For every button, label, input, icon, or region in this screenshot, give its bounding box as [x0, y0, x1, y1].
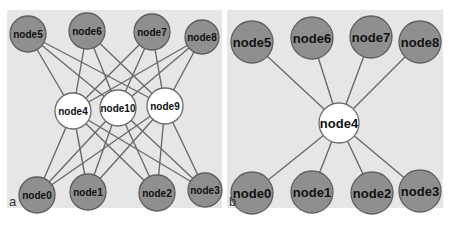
- graph-node-node10: node10: [100, 90, 136, 126]
- node-label: node0: [233, 186, 271, 201]
- graph-node-node8: node8: [185, 20, 219, 54]
- node-label: node8: [401, 35, 439, 50]
- graph-panel-a: node5node6node7node8node4node10node9node…: [10, 13, 222, 213]
- node-label: node1: [73, 187, 103, 198]
- node-label: node7: [352, 30, 390, 45]
- graph-node-node4: node4: [55, 93, 91, 129]
- graph-panel-b: node5node6node7node8node4node0node1node2…: [231, 16, 441, 214]
- node-label: node5: [233, 35, 271, 50]
- graph-node-node4: node4: [319, 103, 359, 143]
- graph-node-node3: node3: [399, 170, 441, 212]
- node-label: node4: [58, 106, 88, 117]
- graph-node-node1: node1: [70, 174, 106, 210]
- graph-node-node2: node2: [139, 175, 175, 211]
- node-label: node4: [320, 116, 359, 131]
- graph-node-node7: node7: [134, 14, 170, 50]
- panel-label-a: a: [9, 194, 16, 209]
- graph-node-node1: node1: [291, 171, 333, 213]
- node-label: node2: [142, 188, 172, 199]
- graph-node-node2: node2: [351, 172, 393, 214]
- node-label: node5: [13, 29, 43, 40]
- graph-node-node6: node6: [291, 17, 333, 59]
- node-label: node0: [22, 190, 52, 201]
- graph-node-node3: node3: [188, 173, 222, 207]
- graph-canvas: node5node6node7node8node4node10node9node…: [0, 0, 451, 226]
- node-label: node3: [190, 185, 220, 196]
- node-label: node7: [137, 27, 167, 38]
- node-label: node10: [100, 103, 135, 114]
- node-label: node6: [72, 26, 102, 37]
- node-label: node3: [401, 184, 439, 199]
- graph-node-node6: node6: [69, 13, 105, 49]
- panel-label-b: b: [229, 194, 236, 209]
- graph-node-node0: node0: [231, 172, 273, 214]
- node-label: node1: [293, 185, 331, 200]
- node-label: node9: [150, 101, 180, 112]
- graph-node-node8: node8: [399, 21, 441, 63]
- node-label: node6: [293, 31, 331, 46]
- graph-node-node7: node7: [350, 16, 392, 58]
- graph-node-node0: node0: [19, 177, 55, 213]
- graph-node-node5: node5: [231, 21, 273, 63]
- graph-node-node5: node5: [10, 16, 46, 52]
- node-label: node8: [187, 32, 217, 43]
- graph-node-node9: node9: [147, 88, 183, 124]
- node-label: node2: [353, 186, 391, 201]
